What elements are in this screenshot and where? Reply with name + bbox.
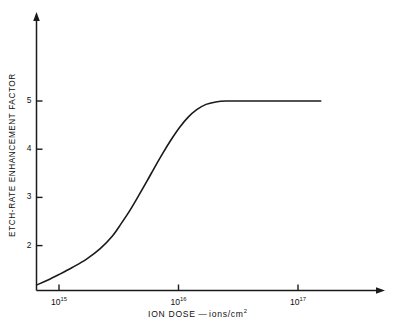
axes bbox=[33, 12, 385, 294]
x-axis-title-units: ions/cm bbox=[209, 309, 244, 319]
x-tick-exponent: 16 bbox=[180, 296, 186, 302]
x-axis-title-dash: — bbox=[198, 309, 207, 319]
x-tick-exponent: 17 bbox=[300, 296, 306, 302]
x-axis-title-units-exponent: 2 bbox=[244, 308, 247, 314]
y-axis-title: ETCH-RATE ENHANCEMENT FACTOR bbox=[6, 25, 20, 285]
x-axis-title: ION DOSE — ions/cm2 bbox=[0, 308, 395, 319]
x-tick-base: 10 bbox=[290, 296, 300, 306]
x-axis-title-name: ION DOSE bbox=[148, 309, 196, 319]
x-tick-base: 10 bbox=[170, 296, 180, 306]
x-tick-exponent: 15 bbox=[61, 296, 67, 302]
chart-plot-area bbox=[0, 0, 395, 330]
axis-ticks bbox=[37, 101, 299, 291]
x-tick-label: 1017 bbox=[275, 296, 321, 307]
x-tick-label: 1015 bbox=[36, 296, 82, 307]
x-tick-base: 10 bbox=[51, 296, 61, 306]
x-tick-label: 1016 bbox=[156, 296, 202, 307]
data-curve bbox=[37, 101, 320, 285]
figure-etch-rate-enhancement: 2345 101510161017 ETCH-RATE ENHANCEMENT … bbox=[0, 0, 395, 330]
